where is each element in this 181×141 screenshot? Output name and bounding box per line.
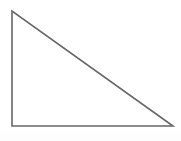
figure-canvas [0, 0, 181, 141]
triangle-svg [0, 0, 181, 141]
right-triangle-outline [12, 11, 173, 126]
